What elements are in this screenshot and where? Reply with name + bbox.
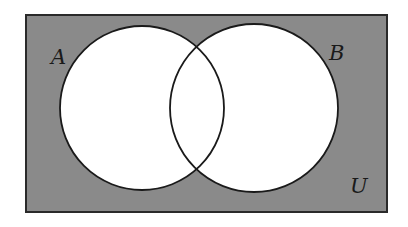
set-a-label: A xyxy=(49,45,66,69)
venn-diagram: A B U xyxy=(0,0,408,227)
set-b-label: B xyxy=(328,41,344,65)
universe-label: U xyxy=(350,174,369,198)
